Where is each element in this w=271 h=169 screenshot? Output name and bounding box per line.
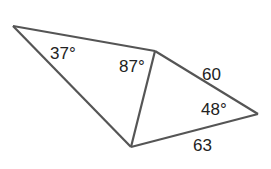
side-cd-label: 63 bbox=[193, 136, 212, 155]
triangle-diagram: 37° 87° 60 48° 63 bbox=[0, 0, 271, 169]
angle-a-label: 37° bbox=[50, 44, 76, 63]
angle-d-label: 48° bbox=[201, 100, 227, 119]
angle-abc-label: 87° bbox=[119, 57, 145, 76]
side-bd-label: 60 bbox=[202, 65, 221, 84]
